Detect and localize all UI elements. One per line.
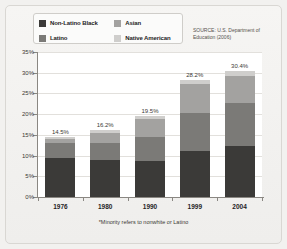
bar-total-label: 14.5% — [45, 129, 75, 135]
legend-label-latino: Latino — [50, 35, 67, 41]
y-tick-label: 15% — [12, 132, 34, 138]
y-tick-label: 5% — [12, 173, 34, 179]
bar-total-label: 28.2% — [180, 72, 210, 78]
y-tick-label: 30% — [12, 70, 34, 76]
bar-stack[interactable] — [90, 130, 120, 197]
x-tick-mark — [38, 197, 39, 201]
bar-group[interactable]: 30.4% — [225, 52, 255, 197]
y-tick-label: 25% — [12, 90, 34, 96]
bar-segment[interactable] — [180, 151, 210, 197]
legend-item-non-latino-black: Non-Latino Black — [39, 20, 114, 27]
legend-row-2: Latino Native American — [39, 32, 178, 44]
bar-segment[interactable] — [90, 143, 120, 160]
chart-figure: Non-Latino Black Asian Latino Native Ame… — [0, 0, 287, 249]
x-tick-label: 1976 — [38, 203, 82, 210]
bar-group[interactable]: 14.5% — [45, 52, 75, 197]
bar-segment[interactable] — [135, 119, 165, 137]
bar-segment[interactable] — [225, 146, 255, 197]
x-tick-mark — [128, 197, 129, 201]
bar-segment[interactable] — [45, 158, 75, 197]
bar-stack[interactable] — [45, 137, 75, 197]
y-tick-label: 10% — [12, 153, 34, 159]
bar-segment[interactable] — [225, 76, 255, 103]
legend-swatch-native-american — [114, 35, 121, 42]
x-tick-mark — [262, 197, 263, 201]
bar-segment[interactable] — [180, 113, 210, 152]
source-note: SOURCE: U.S. Department of Education (20… — [193, 27, 277, 41]
legend-row-1: Non-Latino Black Asian — [39, 17, 178, 29]
bar-segment[interactable] — [45, 143, 75, 158]
bar-stack[interactable] — [180, 80, 210, 197]
x-tick-label: 1990 — [128, 203, 172, 210]
bar-group[interactable]: 19.5% — [135, 52, 165, 197]
bar-group[interactable]: 16.2% — [90, 52, 120, 197]
bar-segment[interactable] — [180, 84, 210, 112]
legend-label-native-american: Native American — [125, 35, 170, 41]
legend-label-asian: Asian — [125, 20, 141, 26]
x-tick-label: 2004 — [218, 203, 262, 210]
bar-segment[interactable] — [135, 161, 165, 197]
chart-footnote: *Minority refers to nonwhite or Latino — [0, 219, 287, 225]
legend-swatch-asian — [114, 20, 121, 27]
legend-label-non-latino-black: Non-Latino Black — [50, 20, 98, 26]
x-tick-mark — [172, 197, 173, 201]
bar-series-container: 14.5%16.2%19.5%28.2%30.4% — [38, 52, 262, 197]
bar-total-label: 19.5% — [135, 108, 165, 114]
x-tick-mark — [83, 197, 84, 201]
bar-segment[interactable] — [225, 103, 255, 146]
y-tick-label: 0% — [12, 194, 34, 200]
legend-swatch-latino — [39, 35, 46, 42]
legend-item-asian: Asian — [114, 20, 178, 27]
legend-item-latino: Latino — [39, 35, 114, 42]
bar-group[interactable]: 28.2% — [180, 52, 210, 197]
bar-stack[interactable] — [225, 71, 255, 197]
bar-segment[interactable] — [135, 137, 165, 161]
bar-stack[interactable] — [135, 116, 165, 197]
legend-swatch-non-latino-black — [39, 20, 46, 27]
y-tick-label: 35% — [12, 49, 34, 55]
x-tick-mark — [217, 197, 218, 201]
bar-total-label: 16.2% — [90, 122, 120, 128]
x-axis-line — [36, 197, 264, 198]
x-tick-label: 1980 — [83, 203, 127, 210]
bar-total-label: 30.4% — [225, 63, 255, 69]
legend-item-native-american: Native American — [114, 35, 178, 42]
y-tick-label: 20% — [12, 111, 34, 117]
x-tick-label: 1999 — [173, 203, 217, 210]
bar-segment[interactable] — [90, 160, 120, 197]
chart-legend: Non-Latino Black Asian Latino Native Ame… — [33, 13, 183, 44]
bar-segment[interactable] — [90, 133, 120, 143]
